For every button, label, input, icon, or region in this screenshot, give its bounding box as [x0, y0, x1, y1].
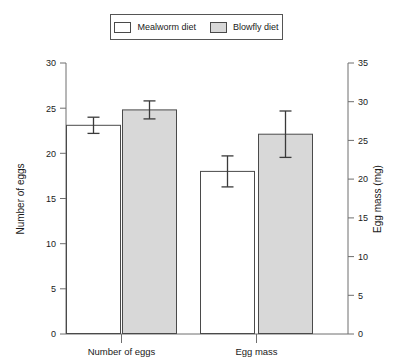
right-tick-label-20: 20: [358, 174, 368, 184]
right-tick-label-10: 10: [358, 252, 368, 262]
left-axis-ticks: [60, 63, 66, 334]
right-tick-label-25: 25: [358, 136, 368, 146]
bar-blowfly-number-of-eggs[interactable]: [123, 110, 177, 334]
right-tick-label-35: 35: [358, 58, 368, 68]
left-axis-tick-labels: 0 5 10 15 20 25 30: [46, 58, 56, 339]
left-tick-label-25: 25: [46, 104, 56, 114]
right-tick-label-0: 0: [358, 329, 363, 339]
right-tick-label-30: 30: [358, 97, 368, 107]
left-tick-label-0: 0: [51, 329, 56, 339]
left-axis-title: Number of eggs: [15, 163, 26, 234]
bar-mealworm-number-of-eggs[interactable]: [67, 125, 121, 333]
bar-mealworm-egg-mass[interactable]: [201, 171, 255, 333]
bar-chart-plot: 0 5 10 15 20 25 30 Number of eggs 0 5 10…: [0, 0, 393, 364]
left-tick-label-5: 5: [51, 284, 56, 294]
right-tick-label-5: 5: [358, 291, 363, 301]
category-label-number-of-eggs: Number of eggs: [88, 346, 156, 357]
left-tick-label-10: 10: [46, 239, 56, 249]
right-axis-title: Egg mass (mg): [372, 165, 383, 233]
category-label-egg-mass: Egg mass: [235, 346, 277, 357]
left-tick-label-20: 20: [46, 149, 56, 159]
right-tick-label-15: 15: [358, 213, 368, 223]
left-tick-label-30: 30: [46, 58, 56, 68]
figure-root: Mealworm diet Blowfly diet 0 5 10 15 20 …: [0, 0, 393, 364]
left-tick-label-15: 15: [46, 194, 56, 204]
bar-blowfly-egg-mass[interactable]: [259, 134, 313, 333]
right-axis-tick-labels: 0 5 10 15 20 25 30 35: [358, 58, 368, 339]
right-axis-ticks: [348, 63, 354, 334]
